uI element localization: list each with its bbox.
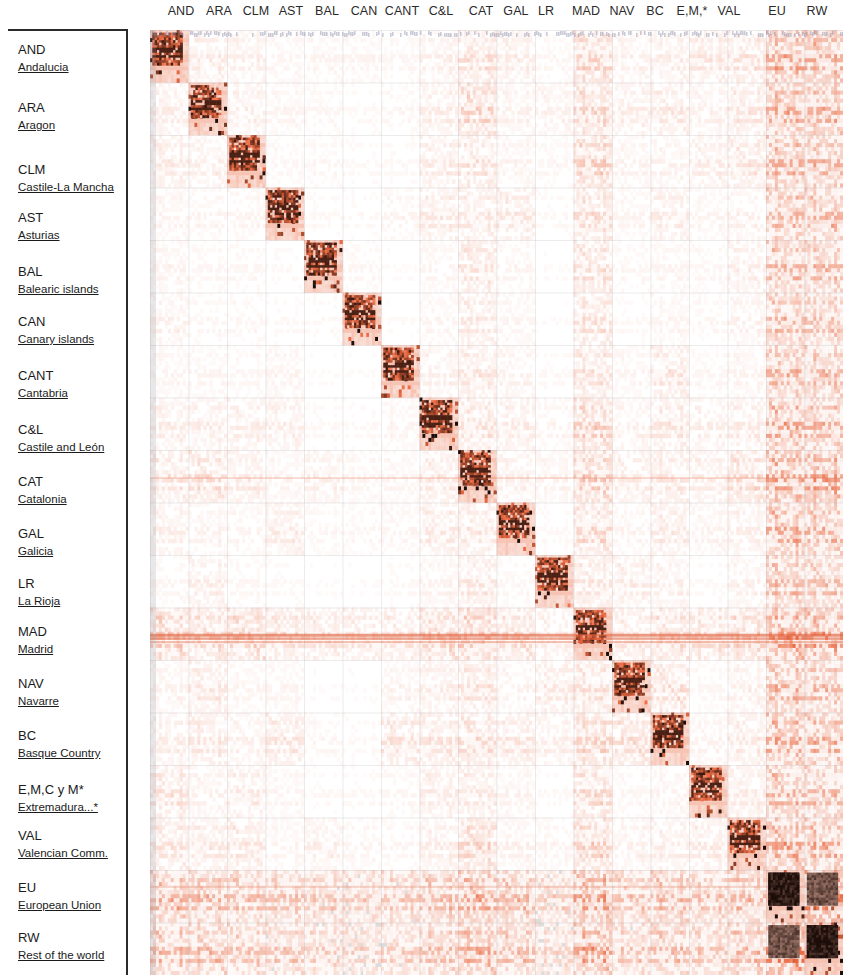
row-code-gal: GAL bbox=[18, 526, 143, 541]
row-name-can[interactable]: Canary islands bbox=[18, 332, 143, 346]
row-label-mad[interactable]: MADMadrid bbox=[18, 624, 143, 656]
row-name-cat[interactable]: Catalonia bbox=[18, 492, 143, 506]
row-label-e-m-c-y-m[interactable]: E,M,C y M*Extremadura...* bbox=[18, 782, 143, 814]
heatmap-canvas bbox=[150, 30, 843, 975]
row-code-eu: EU bbox=[18, 880, 143, 895]
column-header-strip: ANDARACLMASTBALCANCANTC&LCATGALLRMADNAVB… bbox=[0, 0, 843, 30]
row-code-mad: MAD bbox=[18, 624, 143, 639]
row-code-cat: CAT bbox=[18, 474, 143, 489]
row-label-gal[interactable]: GALGalicia bbox=[18, 526, 143, 558]
row-label-eu[interactable]: EUEuropean Union bbox=[18, 880, 143, 912]
row-code-bc: BC bbox=[18, 728, 143, 743]
row-name-c-l[interactable]: Castile and León bbox=[18, 440, 143, 454]
row-label-ast[interactable]: ASTAsturias bbox=[18, 210, 143, 242]
row-name-val[interactable]: Valencian Comm. bbox=[18, 846, 143, 860]
row-label-cant[interactable]: CANTCantabria bbox=[18, 368, 143, 400]
heatmap-matrix[interactable] bbox=[150, 30, 843, 975]
row-code-and: AND bbox=[18, 42, 143, 57]
row-name-bal[interactable]: Balearic islands bbox=[18, 282, 143, 296]
row-label-ara[interactable]: ARAAragon bbox=[18, 100, 143, 132]
row-label-and[interactable]: ANDAndalucia bbox=[18, 42, 143, 74]
row-code-ast: AST bbox=[18, 210, 143, 225]
row-code-bal: BAL bbox=[18, 264, 143, 279]
row-label-rw[interactable]: RWRest of the world bbox=[18, 930, 143, 962]
row-code-nav: NAV bbox=[18, 676, 143, 691]
row-name-ast[interactable]: Asturias bbox=[18, 228, 143, 242]
row-code-cant: CANT bbox=[18, 368, 143, 383]
row-label-val[interactable]: VALValencian Comm. bbox=[18, 828, 143, 860]
row-code-rw: RW bbox=[18, 930, 143, 945]
row-label-bal[interactable]: BALBalearic islands bbox=[18, 264, 143, 296]
row-name-ara[interactable]: Aragon bbox=[18, 118, 143, 132]
row-name-cant[interactable]: Cantabria bbox=[18, 386, 143, 400]
row-label-bc[interactable]: BCBasque Country bbox=[18, 728, 143, 760]
row-name-eu[interactable]: European Union bbox=[18, 898, 143, 912]
row-code-ara: ARA bbox=[18, 100, 143, 115]
row-name-nav[interactable]: Navarre bbox=[18, 694, 143, 708]
row-label-lr[interactable]: LRLa Rioja bbox=[18, 576, 143, 608]
row-code-clm: CLM bbox=[18, 162, 143, 177]
column-header-rw: RW bbox=[787, 3, 843, 19]
row-name-clm[interactable]: Castile-La Mancha bbox=[18, 180, 143, 194]
row-name-rw[interactable]: Rest of the world bbox=[18, 948, 143, 962]
row-label-can[interactable]: CANCanary islands bbox=[18, 314, 143, 346]
row-name-bc[interactable]: Basque Country bbox=[18, 746, 143, 760]
row-name-mad[interactable]: Madrid bbox=[18, 642, 143, 656]
row-code-val: VAL bbox=[18, 828, 143, 843]
row-name-gal[interactable]: Galicia bbox=[18, 544, 143, 558]
row-label-c-l[interactable]: C&LCastile and León bbox=[18, 422, 143, 454]
row-label-cat[interactable]: CATCatalonia bbox=[18, 474, 143, 506]
row-name-lr[interactable]: La Rioja bbox=[18, 594, 143, 608]
row-name-e-m-c-y-m[interactable]: Extremadura...* bbox=[18, 800, 143, 814]
row-code-lr: LR bbox=[18, 576, 143, 591]
row-code-can: CAN bbox=[18, 314, 143, 329]
row-label-sidebar: ANDAndaluciaARAAragonCLMCastile-La Manch… bbox=[8, 29, 128, 975]
row-label-clm[interactable]: CLMCastile-La Mancha bbox=[18, 162, 143, 194]
row-label-nav[interactable]: NAVNavarre bbox=[18, 676, 143, 708]
row-code-e-m-c-y-m: E,M,C y M* bbox=[18, 782, 143, 797]
row-name-and[interactable]: Andalucia bbox=[18, 60, 143, 74]
row-code-c-l: C&L bbox=[18, 422, 143, 437]
